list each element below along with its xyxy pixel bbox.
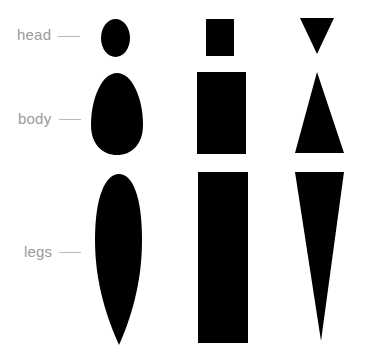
legs-down-triangle-shape	[295, 172, 344, 341]
head-down-triangle-shape	[300, 18, 334, 54]
body-up-triangle-shape	[295, 72, 344, 153]
legs-oval-shape	[95, 174, 142, 345]
shapes-canvas	[0, 0, 365, 364]
legs-rectangle-shape	[198, 172, 248, 343]
body-egg-shape	[91, 73, 143, 155]
body-rectangle-shape	[197, 72, 246, 154]
head-square-shape	[206, 19, 234, 56]
head-ellipse-shape	[101, 19, 130, 57]
body-parts-shape-diagram: head body legs	[0, 0, 365, 364]
